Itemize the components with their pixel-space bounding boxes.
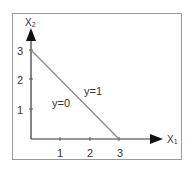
- region-label-y0: y=0: [52, 97, 70, 109]
- x-tick-label-2: 2: [87, 147, 93, 159]
- y-tick-label-2: 2: [17, 74, 23, 86]
- decision-boundary-diagram: 1 2 3 1 2 3 X2 X1 y=0 y=1: [0, 0, 196, 172]
- y-axis-arrow-icon: [26, 28, 36, 41]
- x-tick-label-3: 3: [117, 147, 123, 159]
- boundary-line: [31, 50, 119, 139]
- x-tick-label-1: 1: [57, 147, 63, 159]
- y-axis-label: X2: [25, 17, 36, 28]
- y-tick-label-3: 3: [17, 45, 23, 57]
- x-axis-label: X1: [167, 134, 178, 145]
- y-tick-label-1: 1: [17, 104, 23, 116]
- region-label-y1: y=1: [84, 85, 102, 97]
- x-axis-arrow-icon: [150, 134, 163, 144]
